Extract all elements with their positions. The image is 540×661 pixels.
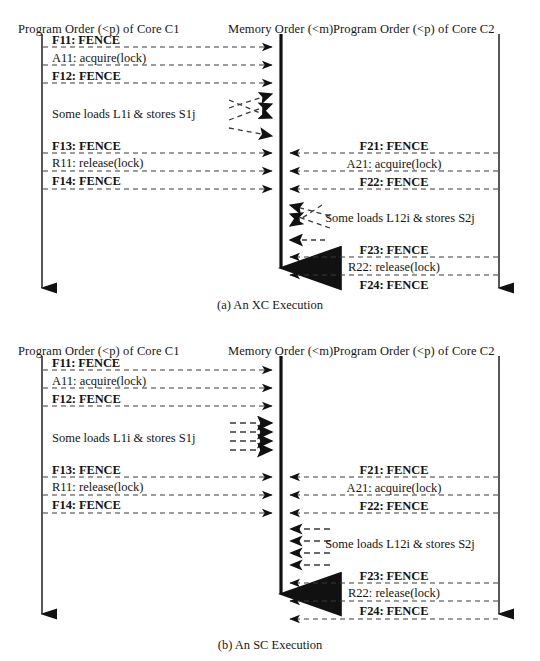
event-label: A21: acquire(lock) <box>290 482 498 495</box>
event-label: R11: release(lock) <box>52 157 144 170</box>
event-label: F11: FENCE <box>52 357 120 370</box>
event-label: F11: FENCE <box>52 34 120 47</box>
event-label: F12: FENCE <box>52 393 121 406</box>
figure-caption-b: (b) An SC Execution <box>0 638 540 653</box>
event-label: F12: FENCE <box>52 70 121 83</box>
event-label: F23: FENCE <box>290 570 498 583</box>
event-label: F24: FENCE <box>290 605 498 618</box>
figure-sc-execution: Program Order (<p) of Core C1 Memory Ord… <box>0 322 540 661</box>
event-label: F13: FENCE <box>52 140 121 153</box>
event-label: A11: acquire(lock) <box>52 52 146 65</box>
reordered-memory-arrows-core1-a <box>229 94 272 136</box>
event-label: F21: FENCE <box>290 140 498 153</box>
inorder-memory-arrows-core1-b <box>230 423 272 450</box>
event-label: Some loads L12i & stores S2j <box>300 538 500 551</box>
event-label: R11: release(lock) <box>52 481 144 494</box>
event-label: Some loads L12i & stores S2j <box>300 212 500 225</box>
event-label: Some loads L1i & stores S1j <box>52 432 195 445</box>
event-label: A11: acquire(lock) <box>52 375 146 388</box>
event-label: F23: FENCE <box>290 244 498 257</box>
event-label: F14: FENCE <box>52 499 121 512</box>
event-label: F24: FENCE <box>290 279 498 292</box>
figure-xc-execution: Program Order (<p) of Core C1 Memory Ord… <box>0 0 540 322</box>
event-label: F14: FENCE <box>52 175 121 188</box>
event-label: Some loads L1i & stores S1j <box>52 108 195 121</box>
event-label: A21: acquire(lock) <box>290 158 498 171</box>
event-label: F13: FENCE <box>52 464 121 477</box>
event-label: R22: release(lock) <box>290 587 498 600</box>
event-label: F22: FENCE <box>290 176 498 189</box>
event-label: R22: release(lock) <box>290 261 498 274</box>
event-label: F21: FENCE <box>290 464 498 477</box>
event-label: F22: FENCE <box>290 500 498 513</box>
figure-caption-a: (a) An XC Execution <box>0 298 540 313</box>
